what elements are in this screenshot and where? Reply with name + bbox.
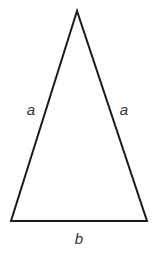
base-label: b <box>75 231 83 246</box>
left-side-label: a <box>27 102 35 117</box>
right-side-label: a <box>120 102 128 117</box>
triangle-diagram <box>0 0 155 253</box>
